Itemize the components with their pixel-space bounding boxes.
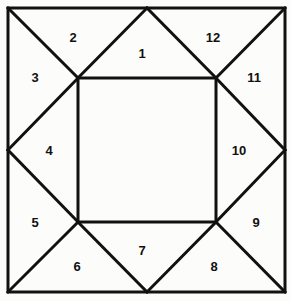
region-label-1: 1 xyxy=(138,47,145,60)
region-label-3: 3 xyxy=(31,71,38,84)
region-label-7: 7 xyxy=(138,244,145,257)
region-label-12: 12 xyxy=(206,31,220,44)
region-label-2: 2 xyxy=(69,31,76,44)
region-label-4: 4 xyxy=(45,144,52,157)
region-label-10: 10 xyxy=(232,144,246,157)
region-label-6: 6 xyxy=(73,260,80,273)
region-label-8: 8 xyxy=(210,260,217,273)
geometric-figure: 123456789101112 xyxy=(0,0,291,301)
region-label-9: 9 xyxy=(252,216,259,229)
region-label-11: 11 xyxy=(247,71,261,84)
region-label-5: 5 xyxy=(31,216,38,229)
